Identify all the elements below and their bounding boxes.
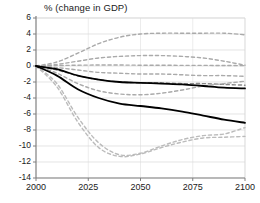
x-tick-label: 2025 [78,182,98,192]
series-line-scenario-band-3 [36,65,245,66]
y-tick-label: -10 [19,140,32,150]
x-tick-label: 2000 [26,182,46,192]
x-tick-label: 2100 [235,182,255,192]
y-tick-label: -12 [19,156,32,166]
y-tick-label: -14 [19,172,32,182]
y-tick-label: 0 [26,60,31,70]
y-tick-label: -4 [23,92,31,102]
x-tick-label: 2075 [183,182,203,192]
y-tick-label: -8 [23,124,31,134]
y-tick-label: -6 [23,108,31,118]
y-tick-label: 4 [26,28,31,38]
chart-plot-area: 6420-2-4-6-8-10-12-14 200020252050207521… [0,0,260,203]
y-tick-label: -2 [23,76,31,86]
y-axis-tick-labels: 6420-2-4-6-8-10-12-14 [19,12,32,182]
y-tick-label: 2 [26,44,31,54]
x-tick-label: 2050 [130,182,150,192]
gdp-change-chart: % (change in GDP) 6420-2-4-6-8-10-12-14 … [0,0,260,203]
x-axis-tick-labels: 20002025205020752100 [26,182,255,192]
y-tick-label: 6 [26,12,31,22]
